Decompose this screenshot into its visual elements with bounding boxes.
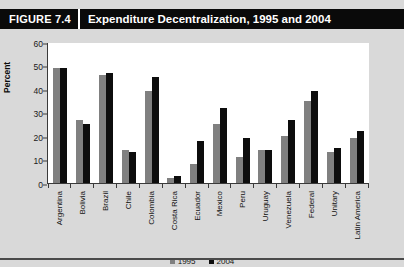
bar-2004 (265, 150, 272, 183)
bar-1995 (53, 68, 60, 183)
bar-group (163, 43, 186, 183)
bar-group (72, 43, 95, 183)
x-label-cell: Argentina (48, 189, 71, 251)
bar-1995 (281, 136, 288, 183)
x-label-cell: Federal (299, 189, 322, 251)
bar-2004 (197, 141, 204, 183)
x-tick-label: Latin America (352, 191, 361, 239)
bar-group (49, 43, 72, 183)
x-label-cell: Costa Rica (162, 189, 185, 251)
x-label-cell: Venezuela (277, 189, 300, 251)
plot-area (47, 43, 369, 184)
chart-panel: 0102030405060 Percent ArgentinaBoliviaBr… (0, 29, 404, 252)
x-tick-label: Federal (306, 191, 315, 218)
bar-1995 (145, 91, 152, 183)
bar-1995 (122, 150, 129, 183)
bar-group (322, 43, 345, 183)
x-label-cell: Latin America (345, 189, 368, 251)
bar-series-container (48, 43, 369, 183)
bar-group (254, 43, 277, 183)
x-tick-label: Ecuador (192, 191, 201, 221)
bar-group (277, 43, 300, 183)
bar-group (186, 43, 209, 183)
x-axis-labels: ArgentinaBoliviaBrazilChileColombiaCosta… (47, 189, 369, 251)
y-tick-label: 30 (34, 109, 43, 119)
bar-2004 (83, 124, 90, 183)
x-label-cell: Mexico (208, 189, 231, 251)
bar-1995 (99, 75, 106, 183)
bar-2004 (60, 68, 67, 183)
bar-1995 (327, 152, 334, 183)
x-tick-label: Chile (124, 191, 133, 209)
x-label-cell: Colombia (139, 189, 162, 251)
bar-2004 (129, 152, 136, 183)
x-tick-label: Argentina (55, 191, 64, 225)
bar-1995 (167, 178, 174, 183)
bar-2004 (243, 138, 250, 183)
bar-2004 (334, 148, 341, 183)
bar-group (345, 43, 368, 183)
figure-number-label: FIGURE 7.4 (0, 9, 78, 29)
x-label-cell: Uruguay (254, 189, 277, 251)
bar-1995 (213, 124, 220, 183)
bottom-rule (0, 258, 404, 260)
y-axis-title: Percent (2, 62, 12, 93)
bar-group (231, 43, 254, 183)
y-tick-label: 60 (34, 39, 43, 49)
bar-1995 (350, 138, 357, 183)
x-tick-label: Costa Rica (169, 191, 178, 230)
bar-1995 (304, 101, 311, 183)
y-tick-label: 20 (34, 133, 43, 143)
bar-1995 (190, 164, 197, 183)
bar-1995 (258, 150, 265, 183)
plot-area-wrapper (47, 43, 369, 184)
y-tick-label: 40 (34, 86, 43, 96)
bar-2004 (174, 176, 181, 183)
x-label-cell: Chile (117, 189, 140, 251)
x-label-cell: Ecuador (185, 189, 208, 251)
x-label-cell: Brazil (94, 189, 117, 251)
x-label-cell: Peru (231, 189, 254, 251)
bar-2004 (311, 91, 318, 183)
y-tick-label: 10 (34, 156, 43, 166)
x-tick-label: Unitary (329, 191, 338, 216)
figure-title: Expenditure Decentralization, 1995 and 2… (80, 9, 331, 29)
bar-2004 (152, 77, 159, 183)
x-tick-label: Colombia (146, 191, 155, 225)
x-tick-label: Uruguay (261, 191, 270, 221)
figure-title-bar: FIGURE 7.4 Expenditure Decentralization,… (0, 9, 404, 29)
bar-2004 (288, 120, 295, 183)
bar-2004 (106, 73, 113, 183)
x-tick-label: Venezuela (284, 191, 293, 228)
figure-container: FIGURE 7.4 Expenditure Decentralization,… (0, 0, 404, 267)
x-tick-label: Brazil (101, 191, 110, 211)
x-tick-label: Bolivia (78, 191, 87, 215)
y-tick-label: 50 (34, 62, 43, 72)
x-tick-label: Mexico (215, 191, 224, 216)
bar-1995 (236, 157, 243, 183)
x-label-cell: Bolivia (71, 189, 94, 251)
x-label-cell: Unitary (322, 189, 345, 251)
bar-group (140, 43, 163, 183)
bar-2004 (220, 108, 227, 183)
bar-group (300, 43, 323, 183)
bar-1995 (76, 120, 83, 183)
bar-2004 (357, 131, 364, 183)
bar-group (95, 43, 118, 183)
bar-group (117, 43, 140, 183)
bar-group (208, 43, 231, 183)
x-tick-label: Peru (238, 191, 247, 208)
